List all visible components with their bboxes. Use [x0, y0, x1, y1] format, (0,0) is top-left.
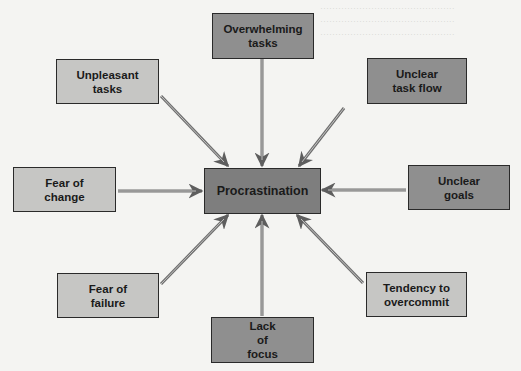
- cause-overwhelming-tasks: Overwhelming tasks: [212, 13, 314, 59]
- cause-fear-of-change: Fear of change: [13, 167, 116, 212]
- cause-tendency-to-overcommit: Tendency to overcommit: [366, 272, 467, 317]
- cause-unpleasant-tasks: Unpleasant tasks: [56, 59, 159, 104]
- cause-fear-of-failure: Fear of failure: [57, 273, 159, 318]
- cause-unclear-goals: Unclear goals: [408, 165, 510, 210]
- center-procrastination: Procrastination: [204, 168, 321, 214]
- cause-unclear-task-flow: Unclear task flow: [367, 58, 467, 104]
- cause-lack-of-focus: Lack of focus: [211, 317, 314, 363]
